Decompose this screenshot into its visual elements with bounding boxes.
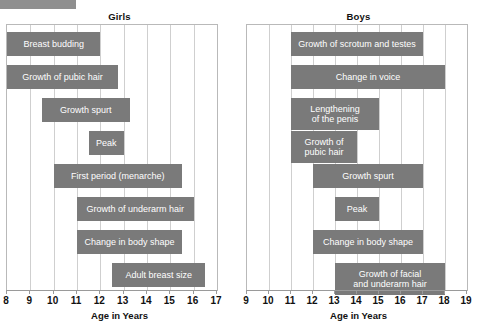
panel-girls-x-axis bbox=[6, 290, 217, 291]
tick-label-11: 11 bbox=[280, 295, 300, 306]
tick-label-13: 13 bbox=[113, 295, 133, 306]
tick-label-16: 16 bbox=[183, 295, 203, 306]
tick-mark-8 bbox=[6, 290, 7, 294]
panel-girls: Girls Breast buddingGrowth of pubic hair… bbox=[0, 0, 239, 326]
tick-mark-16 bbox=[400, 290, 401, 294]
tick-mark-13 bbox=[123, 290, 124, 294]
bar-girls-3: Peak bbox=[89, 131, 124, 155]
gridline-10 bbox=[269, 25, 270, 291]
tick-label-17: 17 bbox=[206, 295, 226, 306]
panel-boys-plot-area: Growth of scrotum and testesChange in vo… bbox=[246, 24, 468, 291]
bar-girls-6: Change in body shape bbox=[77, 230, 182, 254]
bar-girls-5: Growth of underarm hair bbox=[77, 197, 194, 221]
panel-girls-title: Girls bbox=[0, 11, 239, 22]
tick-mark-9 bbox=[29, 290, 30, 294]
gridline-18 bbox=[445, 25, 446, 291]
tick-label-12: 12 bbox=[89, 295, 109, 306]
bar-girls-1: Growth of pubic hair bbox=[7, 65, 118, 89]
tick-label-19: 19 bbox=[456, 295, 476, 306]
tick-label-10: 10 bbox=[258, 295, 278, 306]
tick-mark-15 bbox=[169, 290, 170, 294]
chart-panels: Girls Breast buddingGrowth of pubic hair… bbox=[0, 0, 478, 326]
tick-mark-12 bbox=[312, 290, 313, 294]
bar-boys-2: Lengthening of the penis bbox=[291, 98, 379, 130]
tick-label-18: 18 bbox=[434, 295, 454, 306]
tick-label-14: 14 bbox=[136, 295, 156, 306]
tick-label-11: 11 bbox=[66, 295, 86, 306]
tick-label-16: 16 bbox=[390, 295, 410, 306]
tick-mark-10 bbox=[53, 290, 54, 294]
panel-girls-x-axis-label: Age in Years bbox=[0, 310, 239, 321]
tick-label-8: 8 bbox=[0, 295, 16, 306]
tick-label-9: 9 bbox=[19, 295, 39, 306]
tick-mark-17 bbox=[216, 290, 217, 294]
tick-label-14: 14 bbox=[346, 295, 366, 306]
tick-mark-19 bbox=[466, 290, 467, 294]
gridline-16 bbox=[194, 25, 195, 291]
bar-girls-2: Growth spurt bbox=[42, 98, 130, 122]
tick-mark-12 bbox=[99, 290, 100, 294]
bar-girls-4: First period (menarche) bbox=[54, 164, 182, 188]
bar-boys-3: Growth of pubic hair bbox=[291, 131, 357, 163]
panel-boys: Boys Growth of scrotum and testesChange … bbox=[239, 0, 478, 326]
panel-girls-plot-area: Breast buddingGrowth of pubic hairGrowth… bbox=[6, 24, 218, 291]
tick-mark-15 bbox=[378, 290, 379, 294]
tick-mark-14 bbox=[356, 290, 357, 294]
bar-girls-7: Adult breast size bbox=[112, 263, 205, 287]
tick-mark-18 bbox=[444, 290, 445, 294]
panel-boys-title: Boys bbox=[239, 11, 478, 22]
bar-boys-0: Growth of scrotum and testes bbox=[291, 32, 423, 56]
tick-mark-13 bbox=[334, 290, 335, 294]
bar-boys-5: Peak bbox=[335, 197, 379, 221]
tick-label-15: 15 bbox=[368, 295, 388, 306]
panel-boys-x-axis-label: Age in Years bbox=[239, 310, 478, 321]
tick-mark-11 bbox=[76, 290, 77, 294]
bar-boys-1: Change in voice bbox=[291, 65, 445, 89]
bar-boys-6: Change in body shape bbox=[313, 230, 423, 254]
tick-mark-14 bbox=[146, 290, 147, 294]
tick-label-15: 15 bbox=[159, 295, 179, 306]
tick-mark-17 bbox=[422, 290, 423, 294]
bar-girls-0: Breast budding bbox=[7, 32, 100, 56]
tick-label-9: 9 bbox=[236, 295, 256, 306]
tick-mark-11 bbox=[290, 290, 291, 294]
bar-boys-4: Growth spurt bbox=[313, 164, 423, 188]
tick-mark-9 bbox=[246, 290, 247, 294]
tick-mark-10 bbox=[268, 290, 269, 294]
tick-label-13: 13 bbox=[324, 295, 344, 306]
tick-mark-16 bbox=[193, 290, 194, 294]
tick-label-10: 10 bbox=[43, 295, 63, 306]
tick-label-17: 17 bbox=[412, 295, 432, 306]
tick-label-12: 12 bbox=[302, 295, 322, 306]
